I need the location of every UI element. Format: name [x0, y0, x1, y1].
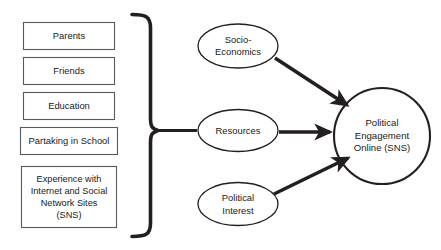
mediator-ellipse-political-interest[interactable] — [198, 183, 278, 226]
connector-political-interest-to-outcome — [274, 158, 348, 194]
antecedent-box-group — [21, 23, 118, 228]
outcome-circle-political-engagement-online[interactable] — [334, 88, 430, 184]
mediator-ellipse-socio-economics[interactable] — [198, 24, 278, 68]
antecedent-box-friends[interactable] — [24, 58, 115, 85]
mediator-ellipse-resources[interactable] — [198, 110, 278, 152]
diagram-vector-layer — [0, 0, 441, 250]
antecedent-box-parents[interactable] — [24, 23, 115, 50]
grouping-brace-icon — [132, 15, 158, 237]
antecedent-box-partaking-in-school[interactable] — [21, 128, 118, 155]
diagram-canvas: Parents Friends Education Partaking in S… — [0, 0, 441, 250]
antecedent-box-experience-with-internet-and-sns[interactable] — [22, 167, 117, 228]
antecedent-box-education[interactable] — [24, 93, 115, 120]
connector-socio-economics-to-outcome — [275, 58, 347, 105]
